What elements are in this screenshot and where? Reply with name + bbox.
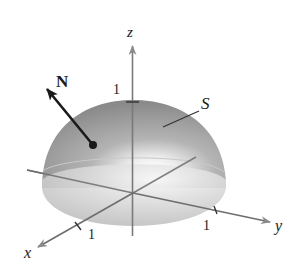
y-tick-label: 1 [203,219,210,233]
x-tick-label: 1 [88,228,95,242]
normal-vector-label: N [56,73,68,90]
base-disk [42,164,226,226]
surface-label: S [201,95,210,112]
z-axis-label: z [127,25,133,40]
diagram-canvas [0,0,302,274]
normal-base-point [89,141,97,149]
z-tick-label: 1 [113,83,120,97]
hemisphere-diagram: z 1 N S x 1 y 1 [0,0,302,274]
x-axis-label: x [24,245,31,261]
y-axis-label: y [275,218,282,234]
